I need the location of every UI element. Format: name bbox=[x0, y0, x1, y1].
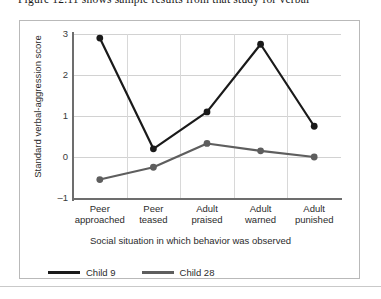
page-divider bbox=[0, 286, 381, 287]
x-tick-label-line: Adult bbox=[277, 203, 351, 214]
x-tick-label: Adultpunished bbox=[277, 203, 351, 225]
x-tick-label-line: punished bbox=[277, 214, 351, 225]
legend-label: Child 28 bbox=[180, 267, 215, 278]
legend-swatch bbox=[142, 271, 174, 274]
data-point bbox=[204, 140, 211, 147]
legend-item: Child 28 bbox=[142, 267, 215, 278]
chart-legend: Child 9Child 28 bbox=[19, 264, 360, 280]
data-point bbox=[311, 123, 318, 130]
legend-item: Child 9 bbox=[48, 267, 116, 278]
data-point bbox=[257, 41, 264, 48]
figure-panel: Standard verbal-aggression score 3210–1 … bbox=[19, 20, 360, 279]
data-point bbox=[96, 35, 103, 42]
data-point bbox=[257, 147, 264, 154]
page-body-text: Figure 12.11 shows sample results from t… bbox=[18, 0, 368, 7]
series-line bbox=[100, 143, 314, 179]
data-point bbox=[311, 154, 318, 161]
data-point bbox=[150, 164, 157, 171]
data-point bbox=[204, 109, 211, 116]
series-line bbox=[100, 38, 314, 149]
legend-label: Child 9 bbox=[86, 267, 116, 278]
data-point bbox=[96, 176, 103, 183]
data-point bbox=[150, 145, 157, 152]
x-axis-title: Social situation in which behavior was o… bbox=[20, 235, 361, 246]
legend-swatch bbox=[48, 271, 80, 274]
